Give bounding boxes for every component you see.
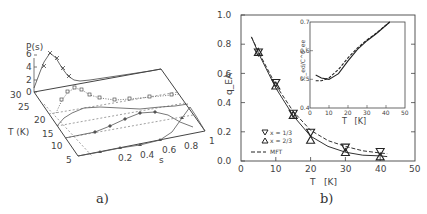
ytick: 0.4 <box>217 98 232 108</box>
ytick: 10 <box>51 141 63 151</box>
legend-item: x = 1/3 <box>270 129 292 136</box>
legend-item: MFT <box>270 148 283 155</box>
inset-xtick: 0 <box>308 109 312 116</box>
ztick: 6 <box>26 49 32 59</box>
xtick: 20 <box>305 164 317 174</box>
xtick: 0.8 <box>184 141 199 151</box>
inset-xtick: 20 <box>344 109 352 116</box>
xlabel: T [K] <box>309 177 337 187</box>
figure: P(s) 6 4 2 0 30 25 20 15 10 5 T (K) 0.2 … <box>0 0 427 214</box>
ylabel: T (K) <box>7 127 29 137</box>
ytick: 15 <box>42 129 53 139</box>
xtick: 40 <box>375 164 387 174</box>
axis-labels-a: P(s) 6 4 2 0 30 25 20 15 10 5 T (K) 0.2 … <box>7 42 215 206</box>
inset-xtick: 10 <box>325 109 333 116</box>
legend-item: x = 2/3 <box>270 137 292 144</box>
ylabel: q_EA <box>224 72 234 95</box>
xtick: 0 <box>238 164 244 174</box>
inset-xtick: 50 <box>401 109 409 116</box>
ytick: 0.8 <box>217 39 232 49</box>
xtick: 0.2 <box>118 153 132 163</box>
ytick: 25 <box>18 102 29 112</box>
ytick: 20 <box>34 115 46 125</box>
ztick: 2 <box>26 75 32 85</box>
ytick: 5 <box>66 155 72 165</box>
xtick: 0.4 <box>140 150 155 160</box>
xtick: 0.6 <box>162 145 177 155</box>
ztick: 0 <box>26 87 32 97</box>
xtick: 10 <box>270 164 282 174</box>
inset-xtick: 30 <box>363 109 371 116</box>
xtick: 1 <box>209 136 215 146</box>
ytick: 30 <box>10 90 22 100</box>
chart-inset-b: 0.4 0.5 0.6 0.7 0 10 20 30 40 50 T [K] C… <box>299 18 409 126</box>
ytick: 0.0 <box>217 156 232 166</box>
ytick: 0.2 <box>217 127 231 137</box>
inset-ytick: 0.7 <box>300 18 310 25</box>
inset-xlabel: T [K] <box>341 117 366 126</box>
xtick: 50 <box>409 164 421 174</box>
ztick: 4 <box>26 62 32 72</box>
xlabel: s <box>159 155 164 165</box>
inset-ylabel: C_ed/C^0_ee <box>299 40 307 80</box>
xtick: 30 <box>340 164 352 174</box>
panel-label-b: b) <box>320 191 333 206</box>
ytick: 1.0 <box>217 10 232 20</box>
panel-label-a: a) <box>96 191 109 206</box>
inset-xtick: 40 <box>382 109 390 116</box>
